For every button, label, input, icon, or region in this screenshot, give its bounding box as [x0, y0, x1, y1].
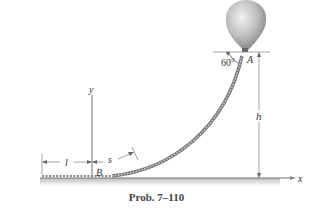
diagram-canvas: y x h l s B A 60°: [0, 0, 313, 213]
label-x: x: [297, 173, 303, 184]
s-dimension: [92, 147, 138, 164]
label-b: B: [96, 167, 102, 178]
figure-caption: Prob. 7–110: [0, 191, 313, 203]
cable: [112, 56, 242, 176]
label-a: A: [246, 54, 254, 65]
label-y: y: [88, 84, 94, 95]
label-s: s: [108, 154, 112, 165]
label-angle: 60°: [221, 57, 235, 68]
label-l: l: [65, 157, 68, 168]
balloon: [226, 0, 267, 52]
label-h: h: [256, 110, 262, 122]
x-axis: [290, 176, 296, 180]
ground: [40, 178, 290, 186]
